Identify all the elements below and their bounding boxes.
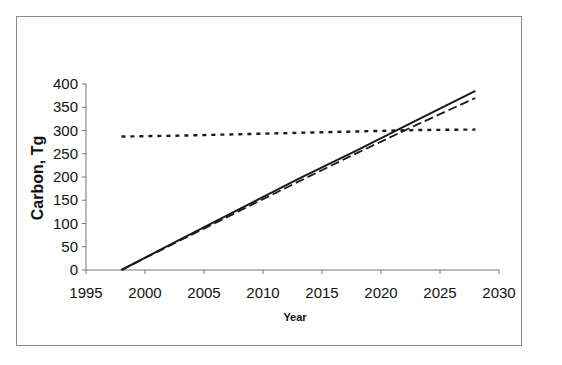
y-tick-label: 100	[53, 215, 78, 232]
y-tick-label: 300	[53, 122, 78, 139]
y-tick-label: 400	[53, 75, 78, 92]
y-axis-label: Carbon, Tg	[29, 136, 46, 220]
y-tick-label: 150	[53, 191, 78, 208]
x-tick-label: 2030	[482, 284, 515, 301]
x-tick-label: 2010	[246, 284, 279, 301]
y-tick-label: 0	[70, 261, 78, 278]
x-tick-label: 2000	[128, 284, 161, 301]
series-line-dotted	[121, 130, 475, 137]
x-tick-label: 2020	[364, 284, 397, 301]
x-tick-label: 1995	[69, 284, 102, 301]
x-tick-label: 2015	[305, 284, 338, 301]
series-line-dashed	[121, 98, 475, 270]
series-lines	[121, 91, 475, 270]
y-tick-label: 350	[53, 98, 78, 115]
x-axis-label: Year	[283, 311, 307, 323]
y-tick-label: 250	[53, 145, 78, 162]
x-tick-label: 2025	[423, 284, 456, 301]
y-tick-label: 50	[61, 238, 78, 255]
y-tick-label: 200	[53, 168, 78, 185]
line-chart: 0501001502002503003504001995200020052010…	[0, 0, 562, 365]
x-tick-label: 2005	[187, 284, 220, 301]
